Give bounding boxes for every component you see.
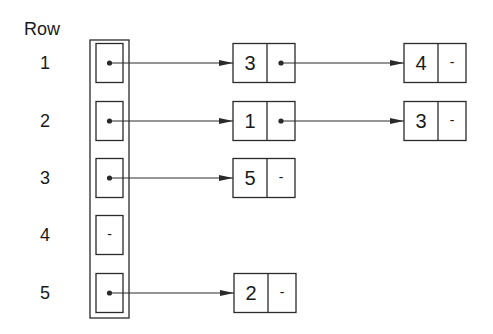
row-4: 4- (40, 216, 123, 255)
row-number-label: 5 (40, 283, 50, 303)
row-5: 52- (40, 274, 296, 313)
list-node: 3- (404, 102, 466, 141)
null-next-symbol: - (450, 54, 455, 70)
row-number-label: 3 (40, 168, 50, 188)
list-node: 3 (233, 44, 404, 83)
null-next-symbol: - (280, 284, 285, 300)
row-2: 213- (40, 102, 466, 141)
node-box (404, 44, 466, 83)
rows-layer: 134-213-35-4-52- (40, 44, 466, 313)
linked-list-diagram: Row 134-213-35-4-52- (0, 0, 493, 334)
row-header-label: Row (24, 19, 61, 39)
row-number-label: 2 (40, 111, 50, 131)
node-value: 3 (415, 110, 426, 132)
null-next-symbol: - (279, 169, 284, 185)
null-pointer-symbol: - (107, 226, 112, 242)
row-number-label: 1 (40, 53, 50, 73)
node-box (234, 274, 296, 313)
list-node: 2- (234, 274, 296, 313)
node-box (233, 159, 295, 198)
node-value: 5 (244, 167, 255, 189)
node-value: 3 (244, 52, 255, 74)
list-node: 5- (233, 159, 295, 198)
list-node: 4- (404, 44, 466, 83)
row-3: 35- (40, 159, 295, 198)
node-box (404, 102, 466, 141)
null-next-symbol: - (450, 112, 455, 128)
node-value: 4 (415, 52, 426, 74)
node-value: 1 (244, 110, 255, 132)
list-node: 1 (233, 102, 404, 141)
node-value: 2 (245, 282, 256, 304)
row-number-label: 4 (40, 225, 50, 245)
row-1: 134- (40, 44, 466, 83)
